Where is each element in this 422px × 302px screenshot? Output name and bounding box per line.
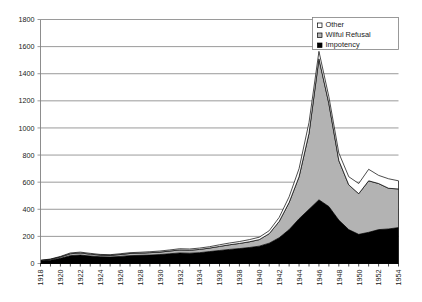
x-axis-tick-label: 1950: [355, 270, 364, 286]
legend-swatch: [318, 23, 323, 28]
x-axis-tick-label: 1930: [156, 270, 165, 286]
chart-container: 0200400600800100012001400160018001918192…: [0, 0, 422, 302]
y-axis-tick-label: 200: [23, 232, 35, 241]
x-axis-tick-label: 1924: [96, 270, 105, 286]
legend-item-label: Other: [326, 20, 345, 29]
y-axis-tick-label: 400: [23, 205, 35, 214]
y-axis-tick-label: 1800: [19, 15, 35, 24]
y-axis-tick-label: 1200: [19, 96, 35, 105]
y-axis-tick-label: 600: [23, 178, 35, 187]
y-axis-tick-label: 800: [23, 151, 35, 160]
x-axis-tick-label: 1922: [76, 270, 85, 286]
x-axis-tick-label: 1920: [56, 270, 65, 286]
stacked-area-chart: 0200400600800100012001400160018001918192…: [0, 0, 422, 302]
x-axis-tick-label: 1948: [335, 270, 344, 286]
x-axis-tick-label: 1952: [374, 270, 383, 286]
x-axis-tick-label: 1928: [136, 270, 145, 286]
x-axis-tick-label: 1932: [176, 270, 185, 286]
x-axis-tick-label: 1954: [394, 270, 403, 286]
x-axis-tick-label: 1936: [215, 270, 224, 286]
y-axis-tick-label: 0: [31, 259, 35, 268]
legend-item-label: Impotency: [326, 40, 360, 49]
y-axis-tick-label: 1400: [19, 69, 35, 78]
legend-swatch: [318, 43, 323, 48]
x-axis-tick-label: 1946: [315, 270, 324, 286]
y-axis-tick-label: 1600: [19, 42, 35, 51]
x-axis-tick-label: 1934: [195, 270, 204, 286]
x-axis-tick-label: 1942: [275, 270, 284, 286]
x-axis-tick-label: 1944: [295, 270, 304, 286]
legend-swatch: [318, 33, 323, 38]
x-axis-tick-label: 1926: [116, 270, 125, 286]
x-axis-tick-label: 1938: [235, 270, 244, 286]
legend-item-label: Wilful Refusal: [326, 30, 372, 39]
y-axis-tick-label: 1000: [19, 124, 35, 133]
x-axis-tick-label: 1940: [255, 270, 264, 286]
x-axis-tick-label: 1918: [36, 270, 45, 286]
